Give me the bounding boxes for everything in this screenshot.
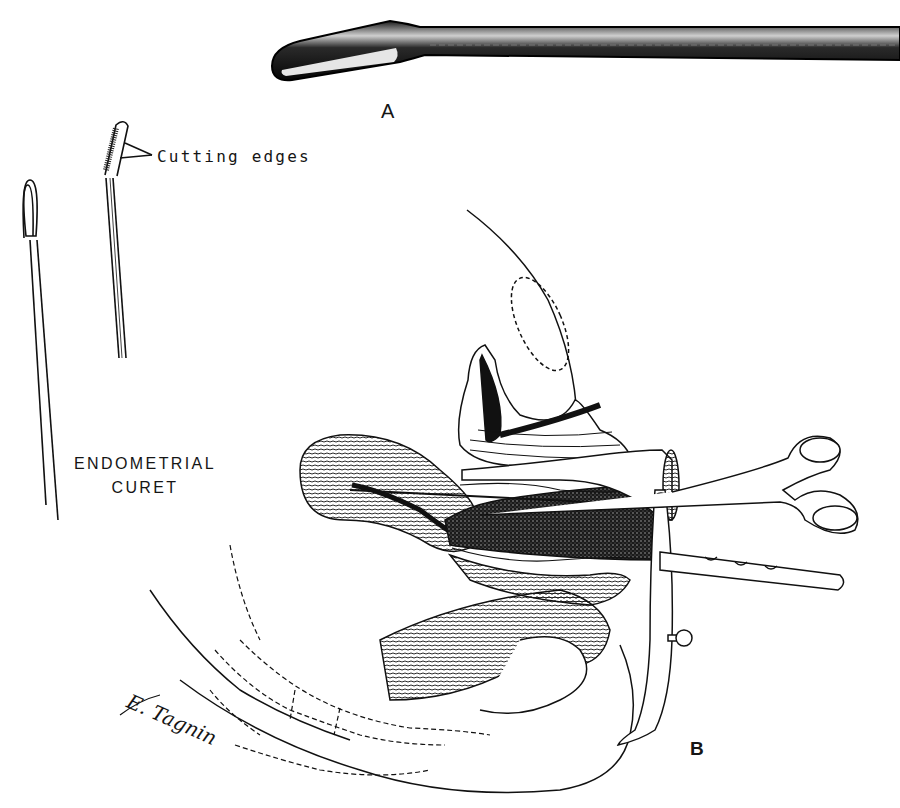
uterine-sound — [660, 552, 844, 590]
panel-label-a: A — [381, 100, 394, 123]
instrument-name-line1: ENDOMETRIAL — [74, 452, 216, 476]
anatomical-section — [0, 0, 900, 808]
instrument-name-label: ENDOMETRIAL CURET — [74, 452, 216, 500]
cutting-edges-label: Cutting edges — [157, 147, 311, 166]
instrument-name-line2: CURET — [74, 476, 216, 500]
panel-label-b: B — [690, 738, 704, 760]
